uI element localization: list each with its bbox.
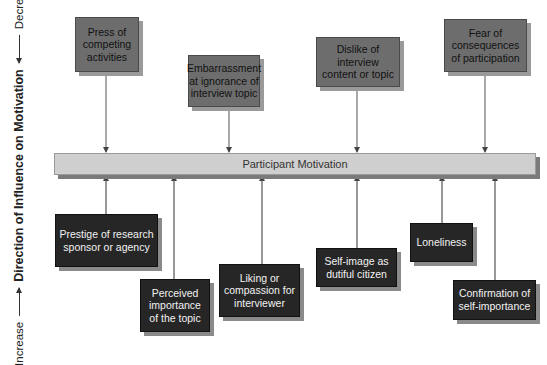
axis-title: Direction of Influence on Motivation: [12, 69, 26, 282]
participant-motivation-label: Participant Motivation: [242, 158, 347, 170]
increase-arrow-icon: [19, 287, 20, 315]
decrease-label: Decrease: [13, 0, 25, 29]
factor-loneliness: Loneliness: [410, 223, 473, 262]
factor-confirmation-self-importance: Confirmation of self-importance: [453, 280, 536, 320]
direction-axis-label: Increase Direction of Influence on Motiv…: [2, 0, 36, 345]
participant-motivation-bar: Participant Motivation: [54, 153, 536, 175]
factor-dislike-of-interview: Dislike of interview content or topic: [316, 37, 400, 87]
factor-perceived-importance: Perceived importance of the topic: [140, 279, 210, 332]
factor-prestige-of-sponsor: Prestige of research sponsor or agency: [55, 214, 158, 267]
increase-label: Increase: [13, 321, 25, 365]
factor-press-of-competing-activities: Press of competing activities: [75, 17, 139, 72]
factor-liking-or-compassion: Liking or compassion for interviewer: [219, 264, 300, 317]
factor-self-image-dutiful-citizen: Self-image as dutiful citizen: [316, 248, 397, 287]
decrease-arrow-icon: [19, 35, 20, 63]
factor-fear-of-consequences: Fear of consequences of participation: [444, 19, 527, 72]
factor-embarrassment: Embarrassment at ignorance of interview …: [188, 55, 260, 107]
